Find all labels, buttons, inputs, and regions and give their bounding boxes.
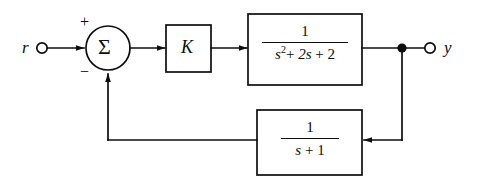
feedback-numerator: 1 xyxy=(259,120,361,137)
feedback-transfer-function: 1 s + 1 xyxy=(259,120,361,159)
output-signal-label: y xyxy=(444,39,452,56)
feedback-fraction-bar xyxy=(281,138,339,139)
feedback-tap-dot xyxy=(397,43,406,52)
feedback-denominator: s + 1 xyxy=(259,141,361,159)
input-signal-label: r xyxy=(22,39,29,56)
plant-den-term-2s: 2s xyxy=(298,46,311,62)
sum-negative-sign: − xyxy=(80,64,89,80)
feedback-den-constant: 1 xyxy=(317,142,325,158)
sum-positive-sign: + xyxy=(80,14,89,30)
gain-block-label: K xyxy=(181,38,193,56)
plant-den-constant: 2 xyxy=(327,46,335,62)
plant-den-operator-2: + xyxy=(315,46,323,62)
plant-den-operator-1: + xyxy=(286,46,294,62)
summation-symbol: Σ xyxy=(98,36,111,58)
plant-fraction-bar xyxy=(262,42,348,43)
plant-numerator: 1 xyxy=(250,24,360,41)
feedback-den-s: s xyxy=(295,142,301,158)
plant-denominator: s2+ 2s + 2 xyxy=(250,45,360,63)
diagram-vector-layer xyxy=(0,0,480,186)
input-terminal-circle xyxy=(37,43,47,53)
plant-transfer-function: 1 s2+ 2s + 2 xyxy=(250,24,360,63)
feedback-den-operator: + xyxy=(305,142,313,158)
block-diagram-canvas: r y + − Σ K 1 s2+ 2s + 2 1 s + 1 xyxy=(0,0,480,186)
output-terminal-circle xyxy=(425,43,435,53)
